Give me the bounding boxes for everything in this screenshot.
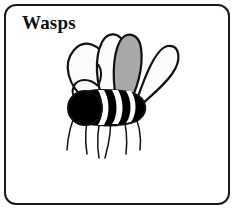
wasp-illustration [54,28,184,168]
body-group [68,90,145,125]
head [68,91,102,125]
card-frame: Wasps [4,4,230,205]
wasp-drawing-svg [54,28,184,168]
wasps-card: Wasps [0,0,239,212]
